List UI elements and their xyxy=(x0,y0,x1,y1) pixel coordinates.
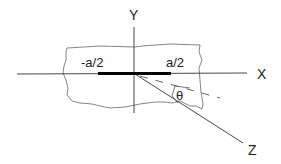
y-axis-label: Y xyxy=(129,7,139,23)
z-axis xyxy=(135,74,243,143)
angle-theta-label: θ xyxy=(176,88,183,103)
x-axis-label: X xyxy=(257,66,267,82)
z-axis-label: Z xyxy=(248,142,257,158)
coordinate-diagram: Y X Z -a/2 a/2 θ xyxy=(0,0,281,164)
strip-left-label: -a/2 xyxy=(81,55,103,70)
strip-right-label: a/2 xyxy=(166,55,184,70)
